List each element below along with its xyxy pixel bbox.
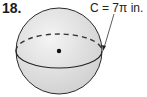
leader-line xyxy=(104,14,114,48)
center-point xyxy=(57,49,61,53)
arrowhead-icon xyxy=(102,45,106,51)
circumference-label: C = 7π in. xyxy=(90,1,143,15)
